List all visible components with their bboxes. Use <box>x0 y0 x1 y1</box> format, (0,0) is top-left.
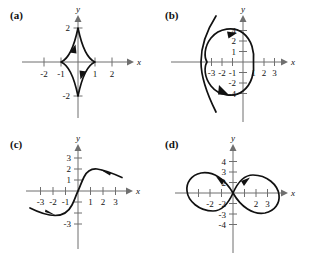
x-axis-arrowhead-a <box>127 59 134 66</box>
plot-d: -2 2 3 4 3 2 -2 -3 -4 x y <box>155 129 310 258</box>
x-tick-label-2-c: 2 <box>101 197 106 207</box>
direction-arrow-bottom-b <box>218 85 229 95</box>
axis-names-c: x y <box>75 133 140 196</box>
y-tick-label-2-b: 2 <box>232 36 237 46</box>
y-tick-label--3-d: -3 <box>219 210 227 220</box>
x-tick-label--2-a: -2 <box>40 69 48 79</box>
x-axis-arrowhead-b <box>281 59 288 66</box>
y-tick-label--4-d: -4 <box>219 220 227 230</box>
x-tick-label-1-a: 1 <box>93 69 98 79</box>
y-axis-label-d: y <box>230 133 235 143</box>
axis-names-d: x y <box>230 133 295 198</box>
panel-a: (a) -2 -1 1 2 2 <box>0 0 155 129</box>
x-tick-label--2-d: -2 <box>206 199 214 209</box>
x-tick-label--3-b: -3 <box>208 68 216 78</box>
x-tick-label--1-a: -1 <box>57 69 65 79</box>
x-tick-label--2-b: -2 <box>218 68 226 78</box>
x-tick-label-2-d: 2 <box>254 199 259 209</box>
y-tick-label-3-d: 3 <box>222 167 227 177</box>
x-tick-label--1-c: -1 <box>62 197 70 207</box>
panel-d: (d) <box>155 129 310 258</box>
y-tick-label-1-b: 1 <box>232 47 237 57</box>
y-tick-label-1-c: 1 <box>67 175 72 185</box>
curve-sigmoid-c <box>30 169 122 216</box>
x-tick-label-1-c: 1 <box>88 197 93 207</box>
y-tick-label--2-b: -2 <box>229 78 237 88</box>
panel-b: (b) <box>155 0 310 129</box>
y-tick-label--4-b: -4 <box>229 89 237 99</box>
x-tick-label-3-b: 3 <box>272 68 277 78</box>
y-tick-label-2-c: 2 <box>67 164 72 174</box>
y-tick-label-2-a: 2 <box>66 23 71 33</box>
axis-names-b: x y <box>240 4 295 67</box>
y-tick-label-3-c: 3 <box>67 153 72 163</box>
y-axis-label-a: y <box>75 4 80 14</box>
x-axis-label-d: x <box>290 188 295 198</box>
x-tick-label-2-b: 2 <box>262 68 267 78</box>
x-tick-label-3-d: 3 <box>265 199 270 209</box>
y-axis-label-b: y <box>240 4 245 14</box>
x-tick-label--2-c: -2 <box>49 197 57 207</box>
x-axis-arrowhead-d <box>281 190 288 197</box>
plot-b: -3 -2 -1 1 2 3 4 2 1 -2 -4 x y <box>155 0 310 129</box>
y-axis-label-c: y <box>75 133 80 143</box>
y-tick-label-4-d: 4 <box>222 157 227 167</box>
x-tick-label-2-a: 2 <box>110 69 115 79</box>
x-axis-arrowhead-c <box>126 188 133 195</box>
x-tick-label--1-b: -1 <box>229 68 237 78</box>
plot-a: -2 -1 1 2 2 -2 x y <box>0 0 155 129</box>
axis-group-d <box>175 144 288 253</box>
panel-c: (c) <box>0 129 155 258</box>
x-axis-label-b: x <box>290 57 295 67</box>
curve-outer-arc-b <box>201 16 216 112</box>
axis-names-a: x y <box>75 4 141 67</box>
y-axis-arrowhead-b <box>240 15 247 22</box>
y-axis-arrowhead-a <box>75 15 82 22</box>
plot-c: -3 -2 -1 1 2 3 3 2 1 -3 x y <box>0 129 155 258</box>
x-tick-label--3-c: -3 <box>37 197 45 207</box>
x-axis-label-a: x <box>136 57 141 67</box>
x-axis-label-c: x <box>135 186 140 196</box>
y-tick-label--3-c: -3 <box>64 219 72 229</box>
y-axis-arrowhead-c <box>75 144 82 151</box>
y-tick-label--2-a: -2 <box>63 91 71 101</box>
figure-grid: (a) -2 -1 1 2 2 <box>0 0 310 258</box>
x-tick-label-3-c: 3 <box>113 197 118 207</box>
y-axis-arrowhead-d <box>230 144 237 151</box>
